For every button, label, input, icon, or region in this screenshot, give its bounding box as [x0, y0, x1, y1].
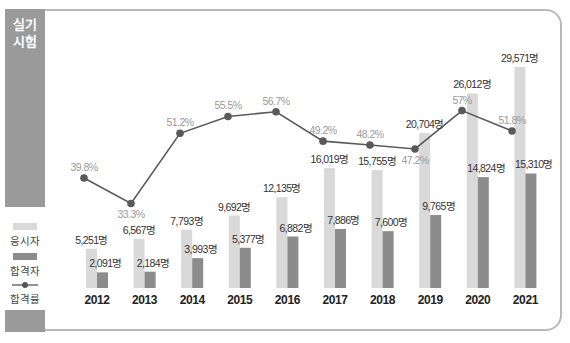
year-axis-label: 2019	[418, 293, 444, 307]
applicants-bar	[372, 170, 383, 288]
passers-value-label: 2,184명	[137, 257, 170, 269]
rate-point	[224, 113, 232, 121]
applicants-value-label: 26,012명	[453, 78, 491, 90]
rate-value-label: 48.2%	[357, 128, 384, 140]
rate-value-label: 51.2%	[167, 116, 194, 128]
passers-bar	[430, 215, 441, 288]
applicants-bar	[324, 168, 335, 288]
applicants-bar	[229, 216, 240, 288]
passers-value-label: 14,824명	[467, 162, 505, 174]
passers-value-label: 5,377명	[232, 233, 265, 245]
rate-point	[80, 174, 88, 182]
passers-bar	[240, 248, 251, 288]
rate-point	[319, 137, 327, 145]
year-axis-label: 2020	[465, 293, 491, 307]
passers-bar	[287, 237, 298, 288]
rate-point	[508, 127, 516, 135]
rate-point	[411, 145, 419, 153]
applicants-bar	[181, 230, 192, 288]
applicants-value-label: 12,135명	[263, 182, 301, 194]
rate-value-label: 39.8%	[71, 161, 98, 173]
passers-bar	[97, 272, 108, 288]
combo-chart: 5,251명2,091명20126,567명2,184명20137,793명3,…	[0, 0, 570, 343]
applicants-bar	[467, 93, 478, 288]
rate-point	[127, 200, 135, 208]
passers-value-label: 9,765명	[422, 200, 455, 212]
rate-value-label: 51.8%	[499, 114, 526, 126]
applicants-value-label: 9,692명	[218, 201, 251, 213]
passers-value-label: 2,091명	[89, 257, 122, 269]
year-axis-label: 2012	[84, 293, 110, 307]
applicants-bar	[514, 67, 525, 288]
rate-value-label: 33.3%	[118, 208, 145, 220]
year-axis-label: 2021	[513, 293, 539, 307]
rate-value-label: 55.5%	[215, 99, 242, 111]
applicants-value-label: 6,567명	[123, 224, 156, 236]
rate-point	[366, 141, 374, 149]
rate-value-label: 56.7%	[263, 95, 290, 107]
year-axis-label: 2016	[275, 293, 301, 307]
applicants-value-label: 7,793명	[170, 215, 203, 227]
applicants-value-label: 20,704명	[406, 118, 444, 130]
passers-value-label: 15,310명	[515, 158, 553, 170]
passers-bar	[145, 272, 156, 288]
passers-value-label: 7,600명	[375, 216, 408, 228]
applicants-bar	[276, 197, 287, 288]
passers-bar	[383, 231, 394, 288]
year-axis-label: 2017	[322, 293, 348, 307]
year-axis-label: 2018	[370, 293, 396, 307]
passers-value-label: 3,993명	[184, 243, 217, 255]
applicants-value-label: 16,019명	[311, 153, 349, 165]
passers-bar	[192, 258, 203, 288]
year-axis-label: 2014	[180, 293, 206, 307]
rate-value-label: 49.2%	[310, 124, 337, 136]
passers-value-label: 7,886명	[327, 214, 360, 226]
rate-point	[176, 130, 184, 138]
passers-bar	[335, 229, 346, 288]
rate-value-label: 47.2%	[402, 154, 429, 166]
rate-point	[272, 108, 280, 116]
passers-value-label: 6,882명	[280, 222, 313, 234]
rate-point	[458, 107, 466, 115]
applicants-value-label: 15,755명	[358, 155, 396, 167]
applicants-value-label: 5,251명	[75, 234, 108, 246]
year-axis-label: 2013	[132, 293, 158, 307]
rate-value-label: 57%	[452, 94, 471, 106]
applicants-value-label: 29,571명	[501, 52, 539, 64]
year-axis-label: 2015	[227, 293, 253, 307]
passers-bar	[525, 173, 536, 288]
passers-bar	[478, 177, 489, 288]
